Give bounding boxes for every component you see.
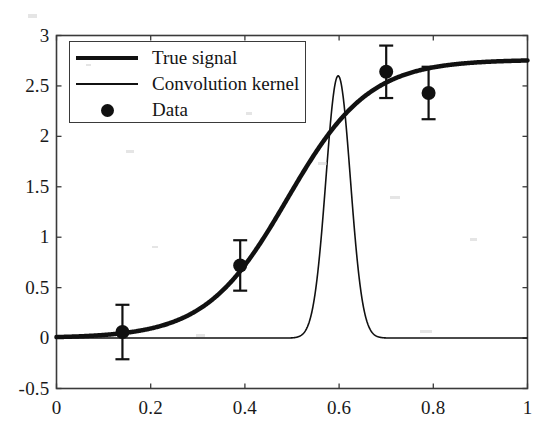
scan-artifact (470, 238, 477, 241)
x-axis-tick-label: 0.8 (421, 397, 445, 419)
scan-artifact (318, 162, 327, 165)
legend-thin-line-icon (76, 83, 138, 85)
legend-circle-marker-icon (101, 104, 114, 117)
y-axis-tick-label: 3 (40, 25, 50, 47)
scan-artifact (246, 112, 252, 115)
legend-sample-true-signal (70, 56, 144, 61)
legend-entry-label: Convolution kernel (144, 73, 299, 95)
legend-entry-label: Data (144, 99, 188, 121)
data-point-marker (422, 86, 436, 100)
convolution-chart-figure: 00.20.40.60.81-0.500.511.522.53True sign… (0, 0, 544, 442)
y-axis-tick-label: 2.5 (25, 75, 49, 97)
legend-sample-data (70, 104, 144, 117)
x-axis-tick-label: 0 (52, 397, 62, 419)
y-axis-tick-label: 2 (40, 125, 50, 147)
legend-entry[interactable]: Convolution kernel (70, 71, 305, 97)
scan-artifact (152, 246, 158, 248)
scan-artifact (196, 334, 205, 337)
data-point-marker (233, 258, 247, 272)
data-point-marker (379, 65, 393, 79)
y-axis-tick-label: -0.5 (19, 378, 50, 400)
scan-artifact (390, 196, 400, 199)
y-axis-tick-label: 1 (40, 226, 50, 248)
x-axis-tick-label: 1 (523, 397, 533, 419)
data-point-marker (115, 325, 129, 339)
legend-sample-convolution-kernel (70, 83, 144, 85)
y-axis-tick-label: 0 (40, 327, 50, 349)
legend-entry[interactable]: Data (70, 97, 305, 123)
scan-artifact (126, 150, 134, 153)
legend-entry[interactable]: True signal (70, 45, 305, 71)
scan-artifact (420, 330, 432, 333)
chart-legend: True signalConvolution kernelData (69, 41, 306, 123)
legend-entry-label: True signal (144, 47, 237, 69)
y-axis-tick-label: 1.5 (25, 176, 49, 198)
y-axis-tick-label: 0.5 (25, 277, 49, 299)
scan-artifact (86, 64, 91, 66)
scan-artifact (28, 14, 37, 18)
x-axis-tick-label: 0.4 (233, 397, 257, 419)
x-axis-tick-label: 0.2 (139, 397, 163, 419)
legend-thick-line-icon (76, 56, 138, 61)
x-axis-tick-label: 0.6 (327, 397, 351, 419)
